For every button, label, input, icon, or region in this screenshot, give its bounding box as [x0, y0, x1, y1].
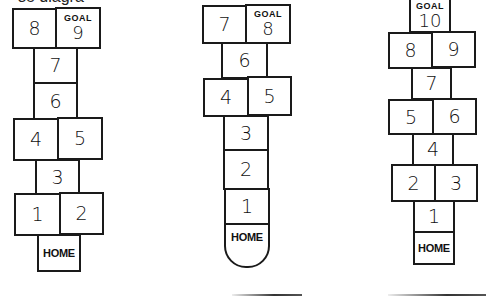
- square-number: 4: [220, 88, 232, 107]
- goal-square-8: GOAL 8: [245, 4, 291, 44]
- square-number: 1: [241, 197, 253, 216]
- goal-square-9: GOAL 9: [55, 7, 101, 49]
- square-number: 4: [427, 140, 439, 159]
- square-2: 2: [223, 149, 269, 190]
- square-number: 5: [405, 108, 417, 127]
- square-8: 8: [388, 32, 433, 69]
- home-square: HOME: [37, 234, 81, 272]
- square-7: 7: [202, 5, 247, 44]
- square-3: 3: [434, 164, 478, 202]
- square-number: 10: [419, 12, 442, 30]
- home-label: HOME: [418, 242, 450, 254]
- square-number: 7: [425, 74, 437, 93]
- square-4: 4: [412, 133, 454, 166]
- square-6: 6: [221, 42, 268, 79]
- square-1: 1: [14, 193, 61, 236]
- square-7: 7: [33, 47, 78, 84]
- square-8: 8: [12, 8, 57, 49]
- home-label: HOME: [43, 247, 75, 259]
- square-number: 9: [447, 40, 459, 59]
- square-5: 5: [57, 117, 103, 160]
- square-6: 6: [432, 98, 477, 135]
- home-label: HOME: [231, 231, 263, 243]
- square-5: 5: [247, 76, 292, 116]
- square-9: 9: [431, 31, 476, 68]
- home-square: HOME: [413, 231, 455, 265]
- square-5: 5: [388, 99, 434, 135]
- square-number: 4: [30, 130, 42, 149]
- square-number: 6: [448, 107, 460, 126]
- square-7: 7: [411, 67, 452, 100]
- square-2: 2: [59, 192, 104, 235]
- square-4: 4: [13, 118, 59, 161]
- square-3: 3: [35, 159, 80, 195]
- square-1: 1: [413, 200, 455, 233]
- square-number: 5: [263, 87, 275, 106]
- square-number: 3: [450, 174, 462, 193]
- square-number: 8: [28, 19, 40, 38]
- square-number: 8: [404, 41, 416, 60]
- square-number: 3: [240, 124, 252, 143]
- square-number: 7: [49, 56, 61, 75]
- square-number: 2: [240, 160, 252, 179]
- square-number: 7: [218, 15, 230, 34]
- square-6: 6: [33, 82, 78, 120]
- square-3: 3: [223, 115, 269, 151]
- square-2: 2: [391, 164, 436, 202]
- square-number: 8: [262, 20, 273, 38]
- square-number: 2: [407, 174, 419, 193]
- caption-fragment: se diagra: [18, 0, 84, 6]
- square-number: 5: [74, 129, 86, 148]
- goal-square-10: GOAL 10: [409, 0, 451, 33]
- square-number: 1: [428, 207, 440, 226]
- square-number: 2: [75, 204, 87, 223]
- square-1: 1: [224, 188, 270, 225]
- square-number: 6: [238, 51, 250, 70]
- home-square-rounded: HOME: [224, 223, 270, 268]
- square-number: 3: [51, 168, 63, 187]
- square-number: 9: [72, 24, 83, 42]
- square-number: 6: [49, 92, 61, 111]
- square-number: 1: [31, 205, 43, 224]
- square-4: 4: [203, 78, 249, 117]
